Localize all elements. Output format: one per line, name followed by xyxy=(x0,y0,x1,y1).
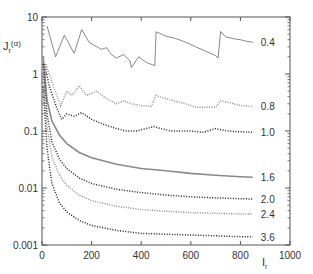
x-tick-label: 600 xyxy=(182,250,199,261)
y-tick-label: 0.01 xyxy=(19,183,39,194)
y-axis-label: Jr(α) xyxy=(3,39,21,54)
x-tick-label: 0 xyxy=(39,250,45,261)
axis-ticks: 020040060080010000.0010.010.1110 xyxy=(13,12,302,261)
x-tick-label: 800 xyxy=(232,250,249,261)
x-tick-label: 1000 xyxy=(279,250,302,261)
series-label: 0.8 xyxy=(261,101,275,112)
y-tick-label: 0.1 xyxy=(24,126,38,137)
series-label: 2.4 xyxy=(261,209,275,220)
x-tick-label: 200 xyxy=(83,250,100,261)
curve-0-8 xyxy=(46,64,253,107)
curve-3-6 xyxy=(43,87,253,237)
log-plot: 020040060080010000.0010.010.1110 0.40.81… xyxy=(0,0,313,274)
series-labels: 0.40.81.01.62.02.43.6 xyxy=(261,37,275,242)
curve-0-4 xyxy=(47,26,253,68)
y-tick-label: 0.001 xyxy=(13,240,38,251)
x-axis-label: Ir xyxy=(262,256,268,270)
x-tick-label: 400 xyxy=(133,250,150,261)
curve-1-0 xyxy=(45,64,253,132)
series-label: 1.0 xyxy=(261,127,275,138)
data-curves xyxy=(43,26,253,237)
y-tick-label: 1 xyxy=(32,69,38,80)
plot-border xyxy=(42,17,290,245)
x-axis-label-sub: r xyxy=(265,263,268,270)
y-axis-label-sup: (α) xyxy=(11,39,21,48)
series-label: 3.6 xyxy=(261,232,275,243)
series-label: 1.6 xyxy=(261,172,275,183)
plot-frame xyxy=(42,17,290,245)
y-tick-label: 10 xyxy=(27,12,39,23)
series-label: 0.4 xyxy=(261,37,275,48)
y-axis-label-sub: r xyxy=(9,47,12,54)
curve-2-0 xyxy=(43,64,253,199)
series-label: 2.0 xyxy=(261,194,275,205)
